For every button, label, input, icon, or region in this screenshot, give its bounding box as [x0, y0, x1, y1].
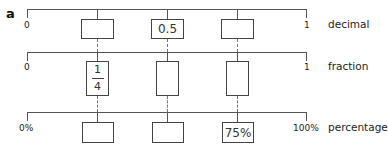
percentage-tick-3 — [237, 112, 238, 122]
connector-1b — [97, 96, 98, 112]
decimal-box-1[interactable] — [81, 19, 114, 39]
percentage-row-label: percentage — [328, 121, 388, 133]
fraction-box-3[interactable] — [226, 61, 249, 96]
fraction-bar — [92, 78, 104, 79]
fraction-tick-3 — [237, 52, 238, 61]
percentage-box-2[interactable] — [152, 122, 184, 143]
percentage-end-tick — [306, 112, 307, 121]
fraction-row-label: fraction — [328, 60, 368, 72]
decimal-start-label: 0 — [24, 20, 30, 30]
fraction-box-1[interactable]: 1 4 — [86, 61, 109, 96]
decimal-tick-2 — [167, 9, 168, 19]
fraction-value: 1 4 — [92, 64, 104, 93]
fraction-end-tick — [306, 52, 307, 61]
percentage-tick-2 — [167, 112, 168, 122]
connector-3a — [237, 39, 238, 52]
decimal-end-tick — [306, 9, 307, 18]
part-label: a — [6, 6, 15, 21]
decimal-tick-1 — [97, 9, 98, 19]
percentage-box-1[interactable] — [82, 122, 114, 143]
percentage-start-label: 0% — [19, 123, 33, 133]
connector-1a — [97, 39, 98, 52]
percentage-tick-1 — [97, 112, 98, 122]
decimal-row-label: decimal — [328, 18, 369, 30]
fraction-end-label: 1 — [304, 62, 310, 72]
connector-3b — [237, 96, 238, 112]
fraction-box-2[interactable] — [156, 61, 179, 96]
numerator: 1 — [94, 64, 101, 76]
connector-2b — [167, 96, 168, 112]
decimal-start-tick — [27, 9, 28, 18]
fraction-tick-2 — [167, 52, 168, 61]
decimal-box-2[interactable]: 0.5 — [151, 19, 184, 39]
percentage-box-3[interactable]: 75% — [222, 122, 254, 143]
fraction-start-tick — [27, 52, 28, 61]
decimal-tick-3 — [237, 9, 238, 19]
percentage-end-label: 100% — [293, 123, 319, 133]
fraction-start-label: 0 — [24, 62, 30, 72]
fraction-tick-1 — [97, 52, 98, 61]
connector-2a — [167, 39, 168, 52]
percentage-start-tick — [27, 112, 28, 121]
decimal-box-3[interactable] — [221, 19, 254, 39]
denominator: 4 — [94, 81, 101, 93]
decimal-end-label: 1 — [304, 20, 310, 30]
